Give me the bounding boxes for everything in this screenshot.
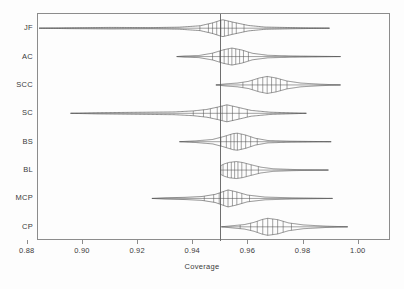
x-tick-mark-2	[137, 240, 138, 244]
x-tick-label-6: 1.00	[350, 246, 365, 255]
violin-lower-edge	[71, 113, 307, 121]
violin-lower-edge	[177, 57, 341, 65]
plot-area-frame	[37, 13, 390, 240]
x-axis-title: Coverage	[0, 262, 404, 271]
x-tick-mark-3	[192, 240, 193, 244]
y-tick-mcp: MCP	[0, 193, 33, 202]
x-tick-label-1: 0.90	[74, 246, 89, 255]
x-tick-label-3: 0.94	[185, 246, 200, 255]
violin-upper-edge	[71, 105, 307, 113]
violin-bl	[221, 162, 329, 179]
x-tick-mark-5	[303, 240, 304, 244]
violin-scc	[216, 76, 341, 93]
x-tick-label-4: 0.96	[240, 246, 255, 255]
y-tick-cp: CP	[0, 221, 33, 230]
violin-cp	[221, 218, 347, 235]
x-tick-label-0: 0.88	[19, 246, 34, 255]
violin-sc	[71, 105, 307, 122]
x-tick-mark-1	[82, 240, 83, 244]
violin-upper-edge	[221, 162, 329, 171]
violin-ac	[177, 48, 341, 65]
x-tick-mark-0	[27, 240, 28, 244]
violin-mcp	[152, 190, 333, 207]
violin-plot-figure: JFACSCCSCBSBLMCPCP 0.880.900.920.940.960…	[0, 0, 404, 289]
violin-upper-edge	[177, 48, 341, 56]
y-tick-bs: BS	[0, 136, 33, 145]
y-tick-scc: SCC	[0, 79, 33, 88]
violin-lower-edge	[221, 170, 329, 179]
violin-lower-edge	[179, 142, 331, 150]
y-tick-jf: JF	[0, 23, 33, 32]
violin-bs	[179, 133, 331, 150]
y-tick-ac: AC	[0, 51, 33, 60]
x-axis-tick-labels: 0.880.900.920.940.960.981.00	[0, 240, 404, 262]
y-tick-bl: BL	[0, 165, 33, 174]
y-tick-sc: SC	[0, 108, 33, 117]
violin-lower-edge	[216, 85, 341, 94]
violin-upper-edge	[179, 133, 331, 141]
y-axis-tick-labels: JFACSCCSCBSBLMCPCP	[0, 13, 33, 240]
x-tick-mark-4	[247, 240, 248, 244]
violin-jf	[39, 20, 329, 37]
violin-upper-edge	[216, 76, 341, 85]
violin-upper-edge	[39, 20, 329, 28]
x-tick-label-2: 0.92	[129, 246, 144, 255]
violin-series-group	[38, 14, 391, 241]
x-tick-mark-6	[358, 240, 359, 244]
x-tick-label-5: 0.98	[295, 246, 310, 255]
violin-lower-edge	[39, 28, 329, 36]
violin-lower-edge	[152, 198, 333, 206]
violin-upper-edge	[152, 190, 333, 198]
